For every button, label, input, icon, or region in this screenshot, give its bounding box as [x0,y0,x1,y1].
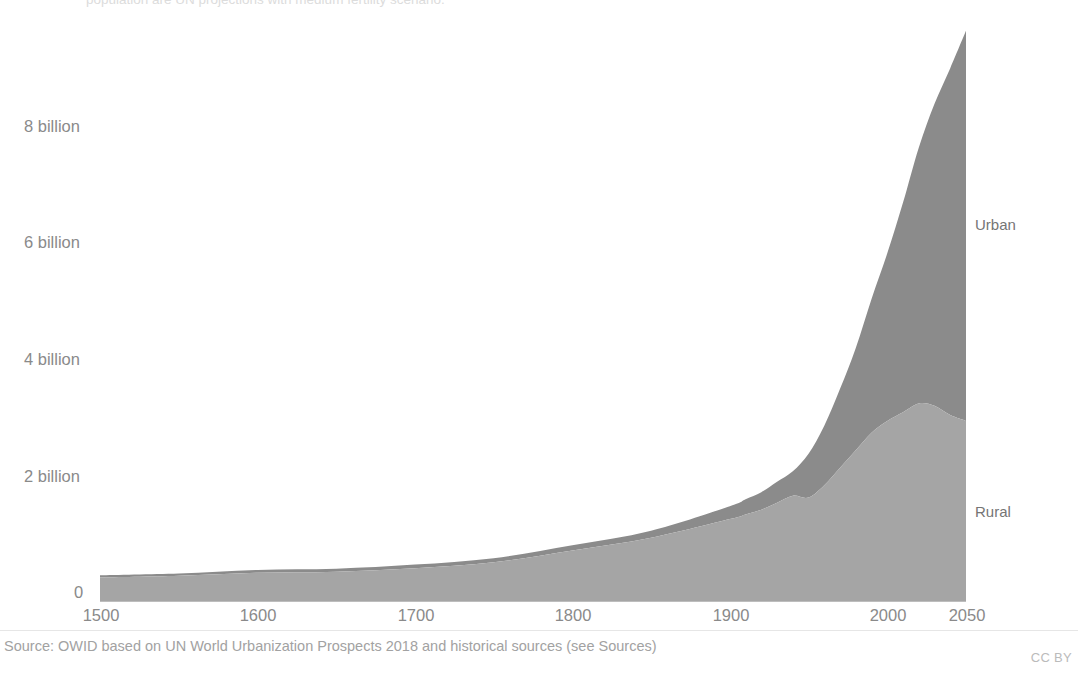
footer-divider [0,630,1078,631]
y-axis: 8 billion 6 billion 4 billion 2 billion … [0,0,100,679]
x-tick-1800: 1800 [555,606,592,625]
x-axis: 1500 1600 1700 1800 1900 2000 2050 [0,606,1078,632]
chart-subtitle: population are UN projections with mediu… [0,0,1078,7]
x-tick-2050: 2050 [949,606,986,625]
x-tick-2000: 2000 [870,606,907,625]
chart-subtitle-strip: population are UN projections with mediu… [0,0,1078,7]
series-label-rural: Rural [975,503,1011,520]
y-tick-2-billion: 2 billion [24,467,26,486]
y-tick-8-billion: 8 billion [24,117,26,136]
x-axis-line [100,601,966,602]
chart-container: population are UN projections with mediu… [0,0,1078,679]
x-tick-1600: 1600 [240,606,277,625]
plot-area [100,18,966,602]
y-tick-6-billion: 6 billion [24,233,26,252]
x-tick-1900: 1900 [713,606,750,625]
source-note: Source: OWID based on UN World Urbanizat… [4,638,657,654]
series-label-urban: Urban [975,216,1016,233]
license-note: CC BY [1031,650,1072,665]
x-tick-1700: 1700 [398,606,435,625]
y-tick-zero: 0 [74,583,83,602]
stacked-area-plot [100,18,966,602]
x-tick-1500: 1500 [83,606,120,625]
y-tick-4-billion: 4 billion [24,350,26,369]
